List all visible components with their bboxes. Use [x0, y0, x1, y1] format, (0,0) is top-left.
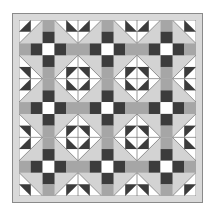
sashing-cell	[113, 102, 125, 114]
sashing-cell	[184, 161, 196, 173]
quilt-block	[113, 114, 160, 161]
sashing-cell	[90, 102, 102, 114]
sashing-cell	[78, 161, 90, 173]
quilt-block	[54, 173, 101, 196]
sashing-cell	[102, 149, 114, 161]
quilt-block	[113, 55, 160, 102]
sashing-cell	[43, 137, 55, 149]
sashing-cell	[149, 102, 161, 114]
sashing-cell	[172, 161, 184, 173]
sashing-cell	[43, 102, 55, 114]
sashing-cell	[90, 161, 102, 173]
quilt-block	[54, 20, 101, 43]
sashing-cell	[54, 161, 66, 173]
sashing-cell	[43, 43, 55, 55]
quilt-block	[172, 20, 196, 43]
sashing-cell	[161, 43, 173, 55]
sashing-cell	[102, 184, 114, 196]
sashing-cell	[161, 137, 173, 149]
sashing-cell	[78, 43, 90, 55]
sashing-cell	[113, 161, 125, 173]
sashing-cell	[161, 67, 173, 79]
sashing-cell	[31, 161, 43, 173]
sashing-cell	[43, 126, 55, 138]
sashing-cell	[43, 55, 55, 67]
sashing-cell	[90, 43, 102, 55]
sashing-cell	[113, 43, 125, 55]
sashing-cell	[43, 90, 55, 102]
sashing-cell	[54, 43, 66, 55]
sashing-cell	[102, 90, 114, 102]
sashing-cell	[43, 114, 55, 126]
sashing-cell	[161, 184, 173, 196]
quilt-block	[172, 173, 196, 196]
quilt-block	[54, 114, 101, 161]
sashing-cell	[102, 79, 114, 91]
sashing-cell	[19, 102, 31, 114]
sashing-cell	[102, 67, 114, 79]
sashing-cell	[161, 20, 173, 32]
sashing-cell	[43, 184, 55, 196]
sashing-cell	[102, 137, 114, 149]
sashing-cell	[102, 43, 114, 55]
sashing-cell	[78, 102, 90, 114]
sashing-cell	[43, 32, 55, 44]
sashing-cell	[137, 43, 149, 55]
sashing-cell	[161, 79, 173, 91]
quilt-pattern	[19, 20, 196, 196]
sashing-cell	[172, 102, 184, 114]
sashing-cell	[31, 102, 43, 114]
sashing-cell	[184, 102, 196, 114]
sashing-cell	[102, 126, 114, 138]
sashing-cell	[161, 90, 173, 102]
quilt-block	[172, 55, 196, 102]
quilt-block	[54, 55, 101, 102]
quilt-block	[19, 55, 43, 102]
quilt-sashing	[19, 20, 196, 196]
sashing-cell	[149, 161, 161, 173]
sashing-cell	[102, 173, 114, 185]
quilt-block	[113, 173, 160, 196]
sashing-cell	[161, 173, 173, 185]
sashing-cell	[125, 43, 137, 55]
quilt-block	[19, 173, 43, 196]
sashing-cell	[102, 32, 114, 44]
sashing-cell	[43, 20, 55, 32]
sashing-cell	[125, 102, 137, 114]
sashing-cell	[102, 114, 114, 126]
sashing-cell	[161, 161, 173, 173]
sashing-cell	[54, 102, 66, 114]
sashing-cell	[66, 43, 78, 55]
sashing-cell	[66, 102, 78, 114]
sashing-cell	[161, 32, 173, 44]
sashing-cell	[125, 161, 137, 173]
sashing-cell	[161, 55, 173, 67]
sashing-cell	[161, 114, 173, 126]
sashing-cell	[102, 55, 114, 67]
sashing-cell	[43, 79, 55, 91]
quilt-block	[113, 20, 160, 43]
sashing-cell	[43, 173, 55, 185]
sashing-cell	[184, 43, 196, 55]
quilt-block	[19, 20, 43, 43]
sashing-cell	[102, 161, 114, 173]
sashing-cell	[161, 102, 173, 114]
sashing-cell	[19, 161, 31, 173]
sashing-cell	[66, 161, 78, 173]
sashing-cell	[161, 149, 173, 161]
sashing-cell	[102, 102, 114, 114]
quilt-block	[19, 114, 43, 161]
sashing-cell	[102, 20, 114, 32]
sashing-cell	[137, 102, 149, 114]
sashing-cell	[172, 43, 184, 55]
sashing-cell	[43, 67, 55, 79]
sashing-cell	[31, 43, 43, 55]
quilt-block	[172, 114, 196, 161]
sashing-cell	[161, 126, 173, 138]
sashing-cell	[19, 43, 31, 55]
sashing-cell	[43, 161, 55, 173]
sashing-cell	[149, 43, 161, 55]
sashing-cell	[137, 161, 149, 173]
sashing-cell	[43, 149, 55, 161]
